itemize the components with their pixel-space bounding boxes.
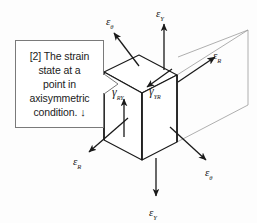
label-gamma-ry-subscript: RY: [117, 95, 124, 101]
label-eps-y-top-subscript: Y: [160, 15, 164, 22]
arrow-eps-r-right: [178, 57, 215, 82]
label-eps-r-left-subscript: R: [77, 163, 81, 170]
label-gamma-yr: γYR: [149, 82, 161, 100]
callout-line-2: state at a: [38, 64, 80, 76]
label-gamma-yr-subscript: YR: [154, 94, 161, 100]
callout-line-5: condition.: [33, 106, 77, 118]
callout-line-3: point in: [43, 78, 76, 90]
figure-canvas: [2] The strain state at a point in axisy…: [0, 0, 257, 223]
label-eps-y-bottom: εY: [149, 203, 157, 222]
arrow-eps-theta-bottom: [170, 127, 206, 160]
label-gamma-ry: γRY: [112, 83, 124, 101]
label-eps-theta-top: εθ: [106, 12, 114, 31]
callout-line-1: [2] The strain: [30, 50, 90, 62]
label-eps-r-left: εR: [73, 152, 81, 171]
wedge-line-bottom: [177, 105, 248, 142]
label-eps-theta-bottom-subscript: θ: [209, 174, 212, 181]
label-eps-theta-bottom: εθ: [205, 163, 213, 182]
label-eps-y-top: εY: [156, 4, 164, 23]
strain-element-cube: [104, 55, 177, 160]
down-arrow-icon: ↓: [80, 106, 85, 118]
label-eps-r-right: εR: [213, 46, 221, 65]
label-eps-r-right-subscript: R: [217, 57, 221, 64]
label-eps-y-bottom-subscript: Y: [153, 214, 157, 221]
callout-line-4: axisymmetric: [29, 92, 89, 104]
callout-box: [2] The strain state at a point in axisy…: [15, 40, 104, 128]
callout-text: [2] The strain state at a point in axisy…: [25, 49, 93, 119]
label-eps-theta-top-subscript: θ: [110, 23, 113, 30]
